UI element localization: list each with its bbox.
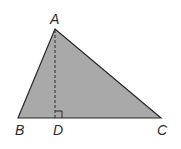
label-a: A <box>49 11 59 27</box>
label-c: C <box>157 122 168 138</box>
triangle-abc <box>18 29 161 118</box>
label-d: D <box>53 122 63 138</box>
label-b: B <box>15 122 24 138</box>
triangle-diagram: A B D C <box>0 0 181 149</box>
